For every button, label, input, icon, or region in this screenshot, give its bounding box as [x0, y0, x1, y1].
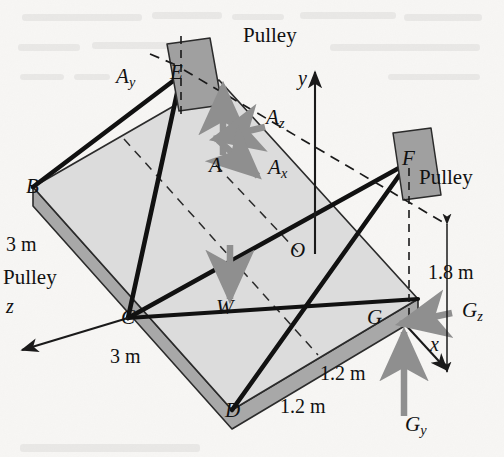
point-label-E: E — [170, 62, 183, 83]
force-base-Ax: A — [268, 155, 281, 179]
force-label-Ax: Ax — [268, 157, 287, 180]
force-base-Gy: G — [405, 412, 420, 436]
point-label-O: O — [290, 240, 305, 261]
force-label-Gz: Gz — [462, 300, 483, 323]
figure-container: A B C D E F G O x y z Ay Az Ax W Gz Gy P… — [0, 0, 504, 457]
force-sub-Gy: y — [420, 422, 426, 438]
pulley-label-f: Pulley — [419, 167, 473, 188]
point-label-F: F — [402, 148, 415, 169]
pulley-label-e: Pulley — [243, 25, 297, 46]
diagram-canvas — [0, 0, 504, 457]
dimension-label-3m-bottom: 3 m — [110, 346, 141, 366]
dimension-label-3m-left: 3 m — [6, 234, 37, 254]
dimension-label-1p2m-right: 1.2 m — [320, 363, 366, 383]
point-label-B: B — [26, 176, 39, 197]
force-sub-Ay: y — [129, 74, 135, 90]
point-label-C: C — [121, 307, 135, 328]
point-label-G: G — [367, 307, 382, 328]
axis-label-y: y — [298, 68, 307, 88]
point-label-A: A — [209, 155, 222, 176]
force-base-Gz: G — [462, 298, 477, 322]
dimension-label-1p8m: 1.8 m — [428, 262, 474, 282]
force-sub-Az: z — [279, 115, 285, 131]
axis-label-z: z — [6, 296, 14, 316]
point-label-D: D — [225, 400, 240, 421]
force-label-Ay: Ay — [116, 66, 135, 89]
force-sub-Gz: z — [477, 308, 483, 324]
force-label-W: W — [216, 297, 234, 320]
force-base-Ay: A — [116, 64, 129, 88]
axis-label-x: x — [430, 334, 439, 354]
force-label-Az: Az — [266, 107, 285, 130]
force-sub-Ax: x — [281, 165, 287, 181]
dimension-label-1p2m-bottom: 1.2 m — [280, 396, 326, 416]
force-label-Gy: Gy — [405, 414, 427, 437]
force-base-Az: A — [266, 105, 279, 129]
pulley-label-c: Pulley — [3, 267, 57, 288]
force-base-W: W — [216, 295, 234, 319]
